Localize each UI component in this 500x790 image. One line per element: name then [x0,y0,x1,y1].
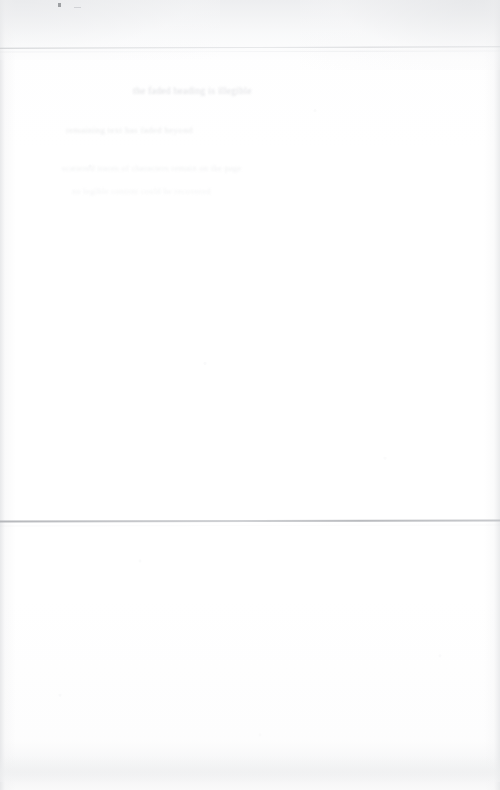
middle-rule-line [0,519,500,522]
top-horizontal-rule [0,46,500,48]
middle-horizontal-rule-echo [0,524,500,526]
scan-speck-icon [58,3,61,7]
faded-heading-trace: the faded heading is illegible [133,86,252,96]
faded-body-line-3: no legible content could be recovered [72,186,211,196]
page-caption: A heavily faded scanned document page. T… [0,0,1,1]
bottom-shadow-band [0,756,500,782]
paper-grain-texture [0,0,500,790]
page-left-edge-shadow [0,0,16,790]
faded-body-line-2: scattered traces of characters remain on… [62,163,242,173]
middle-rule-echo-line [0,524,500,526]
scanned-page: the faded heading is illegible remaining… [0,0,500,790]
top-horizontal-rule-echo [0,51,500,53]
faded-body-line-1: remaining text has faded beyond [66,125,193,135]
top-rule-line [0,46,500,48]
top-left-haze [0,0,220,60]
top-right-haze [300,0,500,70]
top-rule-echo-line [0,51,500,53]
middle-horizontal-rule [0,519,500,522]
page-right-edge-shadow [484,0,500,790]
scan-smudge-icon [74,7,81,8]
